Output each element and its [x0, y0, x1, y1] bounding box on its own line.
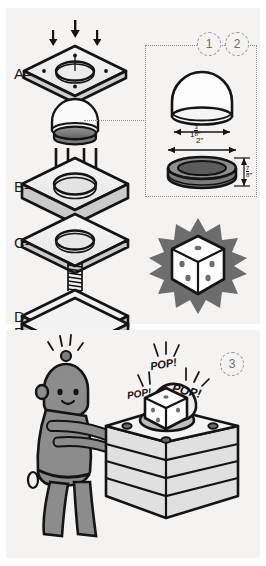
- screw-arrows: [49, 20, 101, 46]
- step-number-3: 3: [220, 352, 244, 376]
- callout-contents-svg: [146, 46, 258, 198]
- ring-height-dimension-text: 78”: [246, 165, 252, 180]
- die-burst-graphic: [148, 216, 248, 316]
- antenna-sparks: [48, 335, 83, 350]
- robot-eye-right: [73, 389, 78, 395]
- antenna-bulb: [61, 351, 71, 361]
- robot-hip-detail: [28, 472, 38, 488]
- robot-eye-left: [57, 389, 62, 395]
- ring-width-arrow: [168, 147, 236, 153]
- robot-leg-right: [74, 482, 96, 536]
- step-number-1: 1: [197, 32, 221, 56]
- part-label-b: B–: [14, 178, 33, 195]
- ring-width-dimension-text: 2”: [196, 136, 203, 145]
- part-label-c: C–: [14, 234, 34, 251]
- dome-detail: [172, 72, 232, 125]
- dome-and-ring-assembly: [52, 99, 98, 144]
- exploded-parts-panel: A– B– C– D–: [6, 8, 260, 324]
- dimension-callout-box: 138” 2” 78”: [145, 45, 257, 197]
- robot-ear: [36, 385, 48, 399]
- callout-leader-line: [84, 120, 146, 121]
- assembled-device: [106, 384, 238, 518]
- part-label-a: A–: [14, 65, 33, 82]
- ring-detail: [168, 157, 236, 188]
- part-label-d: D–: [14, 308, 34, 325]
- dome-width-arrow: [174, 129, 230, 135]
- operation-panel: POP! POP! POP! 3: [6, 330, 260, 558]
- step-number-2: 2: [225, 32, 249, 56]
- part-a-top-plate: [24, 46, 126, 103]
- robot-leg-left: [44, 482, 68, 536]
- illustration-page: A– B– C– D–: [0, 0, 266, 566]
